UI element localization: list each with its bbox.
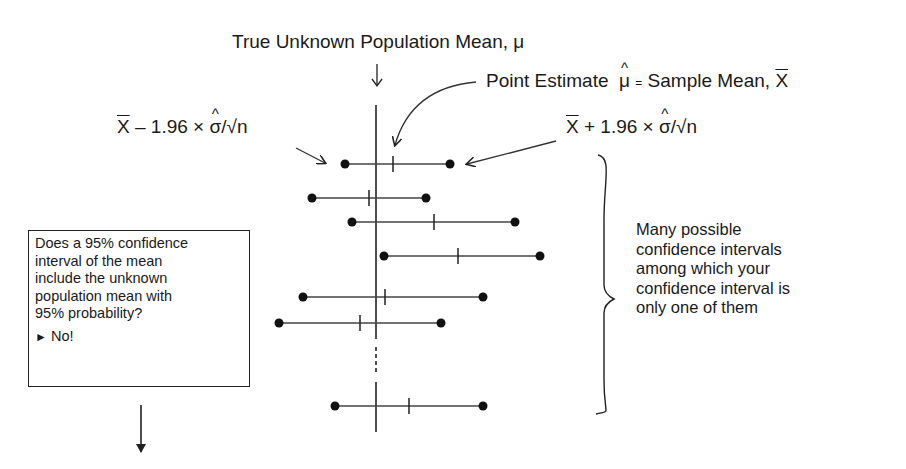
interval-endpoint [479, 402, 488, 411]
interval-endpoint [275, 319, 284, 328]
formula-text: /√n [671, 116, 697, 137]
formula-text: /√n [221, 116, 247, 137]
sigma-hat-symbol: σ [209, 116, 221, 138]
confidence-intervals [275, 156, 545, 414]
question-line: include the unknown [35, 270, 243, 288]
brace-note: Many possible confidence intervals among… [636, 220, 790, 318]
down-arrow-icon [372, 64, 382, 86]
sigma-hat-symbol: σ [659, 116, 671, 138]
xbar-symbol: X [566, 116, 579, 137]
interval-endpoint [511, 218, 520, 227]
point-estimate-arrow [395, 82, 476, 145]
note-line: confidence interval is [636, 279, 790, 299]
lower-bound-formula: X – 1.96 × σ/√n [117, 116, 247, 138]
sample-mean-text: Sample Mean, [648, 70, 771, 91]
interval-endpoint [437, 319, 446, 328]
question-line: interval of the mean [35, 253, 243, 271]
interval-endpoint [446, 160, 455, 169]
equals-sign: = [635, 76, 642, 90]
upper-bound-formula: X + 1.96 × σ/√n [566, 116, 697, 138]
note-line: among which your [636, 259, 790, 279]
interval-endpoint [341, 160, 350, 169]
question-line: Does a 95% confidence [35, 235, 243, 253]
triangle-right-icon: ► [35, 330, 47, 344]
mu-hat-symbol: μ [619, 70, 630, 92]
interval-endpoint [479, 293, 488, 302]
confidence-interval [348, 214, 520, 230]
interval-endpoint [331, 402, 340, 411]
interval-endpoint [299, 293, 308, 302]
interval-endpoint [536, 252, 545, 261]
lower-bound-arrow [296, 148, 325, 163]
confidence-interval [299, 289, 488, 305]
xbar-symbol: X [117, 116, 130, 137]
point-estimate-text: Point Estimate [486, 70, 609, 91]
point-estimate-label: Point Estimate μ = Sample Mean, X [486, 70, 788, 92]
question-line: 95% probability? [35, 305, 243, 323]
true-mean-label: True Unknown Population Mean, μ [232, 31, 524, 53]
interval-endpoint [422, 194, 431, 203]
note-line: confidence intervals [636, 240, 790, 260]
note-line: Many possible [636, 220, 790, 240]
interval-endpoint [308, 194, 317, 203]
formula-text: + 1.96 × [579, 116, 659, 137]
interval-endpoint [380, 252, 389, 261]
down-arrow-icon [136, 405, 146, 453]
answer-text: No! [51, 328, 74, 344]
confidence-interval [380, 248, 545, 264]
confidence-interval [308, 190, 431, 206]
confidence-interval [341, 156, 455, 172]
confidence-interval [275, 315, 446, 331]
xbar-symbol: X [775, 70, 788, 91]
confidence-interval [331, 398, 488, 414]
note-line: only one of them [636, 298, 790, 318]
right-brace [596, 155, 614, 414]
upper-bound-arrow [467, 141, 556, 164]
question-line: population mean with [35, 288, 243, 306]
question-box: Does a 95% confidence interval of the me… [28, 230, 250, 387]
formula-text: – 1.96 × [130, 116, 210, 137]
answer: ► No! [35, 328, 243, 347]
interval-endpoint [348, 218, 357, 227]
